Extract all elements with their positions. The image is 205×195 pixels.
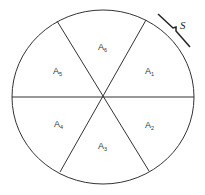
arc-label-s: S (180, 19, 186, 31)
sector-label-a4: A4 (54, 119, 63, 130)
sector-label-a2: A2 (145, 120, 154, 131)
sector-label-a6: A6 (98, 42, 107, 53)
sector-diagram: S A1 A2 A3 A4 A5 A6 (0, 0, 205, 195)
sector-label-a5: A5 (53, 66, 62, 77)
sector-label-a3: A3 (98, 141, 107, 152)
sector-label-a1: A1 (145, 66, 154, 77)
